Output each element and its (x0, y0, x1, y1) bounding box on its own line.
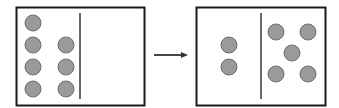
after-particle-circle (284, 45, 300, 61)
before-particle-circle (25, 81, 41, 97)
after-particle-circle (268, 24, 284, 40)
after-particle-circle (268, 66, 284, 82)
before-particle-circle (25, 15, 41, 31)
before-box-group (17, 8, 145, 106)
after-particle-circle (300, 66, 316, 82)
before-particle-circle (25, 37, 41, 53)
after-particle-circle (221, 37, 237, 53)
arrow-right-icon (154, 52, 188, 58)
diagram-canvas (0, 0, 339, 108)
before-particle-circle (58, 81, 74, 97)
before-particle-circle (25, 59, 41, 75)
after-particle-circle (300, 24, 316, 40)
before-particle-circle (58, 37, 74, 53)
arrow-head-icon (181, 52, 188, 58)
before-particle-circle (58, 59, 74, 75)
after-box-group (197, 8, 326, 106)
after-particle-circle (221, 59, 237, 75)
